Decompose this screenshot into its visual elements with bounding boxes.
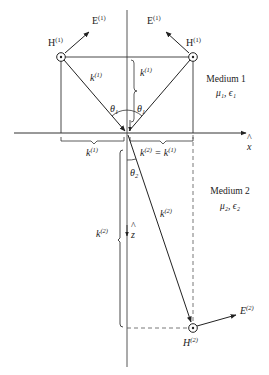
h1-left-label: H(1) xyxy=(48,36,63,48)
k2-label: k(2) xyxy=(160,207,172,219)
theta1-right-label: θ1 xyxy=(137,103,145,115)
kz2-bracket xyxy=(118,150,123,327)
z-axis-label: z xyxy=(130,229,135,240)
medium2-name: Medium 2 xyxy=(210,186,250,196)
h2-marker-icon xyxy=(189,324,198,333)
kx2-brace xyxy=(130,137,193,144)
theta2-label: θ2 xyxy=(130,167,139,179)
kz1-label: k(1) xyxy=(140,66,152,78)
medium2-params: μ₂, ϵ₂ xyxy=(219,201,241,211)
e2-vector xyxy=(197,315,236,326)
h2-label: H(2) xyxy=(182,336,198,348)
h1-right-label: H(1) xyxy=(186,36,201,48)
medium1-name: Medium 1 xyxy=(206,74,246,84)
k2-transmitted-vector xyxy=(128,135,191,322)
e1-left-vector xyxy=(65,32,89,53)
e2-label: E(2) xyxy=(239,304,254,316)
kx1-brace xyxy=(61,137,124,144)
h1-left-marker-icon xyxy=(57,53,66,62)
h1-right-marker-icon xyxy=(189,53,198,62)
refraction-diagram: H(1) E(1) E(1) H(1) k(1) k(1) θ1 θ1 Medi… xyxy=(0,0,269,375)
theta2-arc xyxy=(127,159,136,160)
kz2-label: k(2) xyxy=(96,227,108,239)
e1-left-label: E(1) xyxy=(92,14,106,26)
k1-label: k(1) xyxy=(90,71,102,83)
k1-reflected-vector xyxy=(129,60,190,131)
e1-right-label: E(1) xyxy=(147,14,161,26)
medium1-params: μ₁, ϵ₁ xyxy=(215,88,236,98)
x-axis-label: x xyxy=(246,141,252,152)
kx1-label: k(1) xyxy=(86,146,98,158)
kx-equality-label: k(2) = k(1) xyxy=(140,146,176,158)
theta1-left-label: θ1 xyxy=(110,103,118,115)
